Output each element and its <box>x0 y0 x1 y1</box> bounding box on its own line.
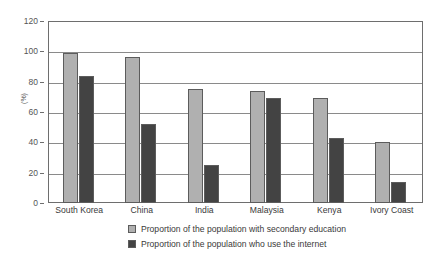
legend-swatch-icon <box>128 240 136 248</box>
x-tick-label: South Korea <box>55 205 103 215</box>
y-tick-mark <box>40 51 44 52</box>
bar-chart-figure: (%) 020406080100120 South KoreaChinaIndi… <box>0 0 443 262</box>
y-tick-mark <box>40 112 44 113</box>
y-tick-mark <box>40 203 44 204</box>
gridline <box>49 83 422 84</box>
x-tick-label: Ivory Coast <box>370 205 413 215</box>
x-tick-label: Kenya <box>317 205 341 215</box>
y-tick-label: 40 <box>29 138 38 147</box>
x-tick-label: China <box>131 205 153 215</box>
y-tick-label: 120 <box>24 17 38 26</box>
y-tick-mark <box>40 82 44 83</box>
legend-label: Proportion of the population who use the… <box>141 239 326 249</box>
y-tick-mark <box>40 142 44 143</box>
x-axis-tick-labels: South KoreaChinaIndiaMalaysiaKenyaIvory … <box>48 205 423 219</box>
gridlines <box>49 22 422 202</box>
gridline <box>49 143 422 144</box>
plot-area <box>48 21 423 203</box>
y-tick-label: 100 <box>24 47 38 56</box>
gridline <box>49 113 422 114</box>
y-axis-tick-labels: 020406080100120 <box>0 21 44 203</box>
chart-legend: Proportion of the population with second… <box>0 221 443 251</box>
gridline <box>49 52 422 53</box>
y-tick-mark <box>40 21 44 22</box>
y-tick-label: 0 <box>33 199 38 208</box>
x-tick-label: Malaysia <box>250 205 284 215</box>
y-tick-label: 20 <box>29 168 38 177</box>
legend-item[interactable]: Proportion of the population who use the… <box>0 236 443 251</box>
legend-swatch-icon <box>128 225 136 233</box>
legend-label: Proportion of the population with second… <box>141 224 346 234</box>
y-tick-mark <box>40 173 44 174</box>
gridline <box>49 174 422 175</box>
y-tick-label: 80 <box>29 77 38 86</box>
legend-item[interactable]: Proportion of the population with second… <box>0 221 443 236</box>
x-tick-label: India <box>195 205 214 215</box>
y-tick-label: 60 <box>29 108 38 117</box>
